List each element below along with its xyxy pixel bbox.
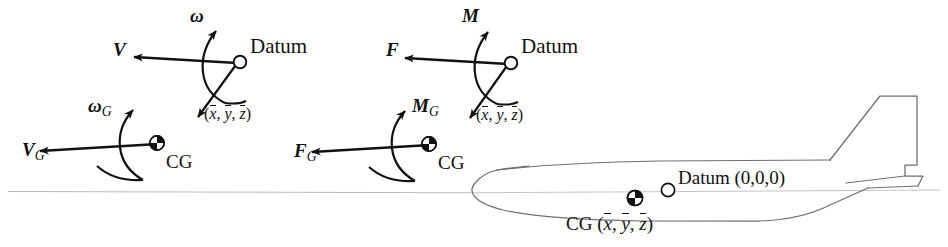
offset-coords-label-2: (x, y, z)	[476, 107, 523, 123]
M-label: M	[462, 6, 479, 25]
omegaG-arc-tail	[97, 166, 143, 180]
aircraft-datum-label: Datum (0,0,0)	[678, 168, 785, 187]
VG-vector-arrow	[40, 144, 158, 151]
F-G-label: FG	[294, 141, 317, 164]
omega-arc-tail	[225, 101, 246, 104]
figure-vector-graphics	[0, 0, 948, 247]
omega-G-label: ωG	[88, 96, 112, 119]
figure-canvas: ω V Datum ωG VG (x, y, z) CG M F Datum M…	[0, 0, 948, 247]
aircraft-cg-label: CG (x, y, z)	[566, 214, 653, 233]
MG-arc-tail	[369, 167, 415, 181]
reference-line	[8, 190, 940, 193]
omega-arc-arrow	[203, 31, 225, 103]
cg-marker-quartered-2	[422, 137, 436, 151]
datum-marker-circle	[234, 56, 247, 69]
M-G-label: MG	[412, 96, 439, 119]
M-arc-arrow	[475, 32, 497, 104]
aircraft-datum-marker	[661, 183, 674, 196]
datum-label-2: Datum	[521, 36, 578, 57]
F-label: F	[386, 40, 399, 59]
M-arc-tail	[497, 102, 518, 105]
cg-label: CG	[166, 152, 192, 171]
datum-marker-circle-2	[505, 57, 518, 70]
V-G-label: VG	[22, 140, 45, 163]
datum-label: Datum	[250, 36, 307, 57]
cg-marker-quartered	[150, 136, 164, 150]
F-vector-arrow	[405, 58, 508, 64]
aircraft-outline	[472, 96, 923, 221]
FG-vector-arrow	[312, 145, 430, 152]
offset-coords-label: (x, y, z)	[204, 106, 251, 122]
V-label: V	[113, 40, 126, 59]
cg-label-2: CG	[438, 153, 464, 172]
omega-label: ω	[190, 6, 204, 25]
V-vector-arrow	[134, 57, 237, 63]
aircraft-cg-marker	[627, 190, 642, 205]
